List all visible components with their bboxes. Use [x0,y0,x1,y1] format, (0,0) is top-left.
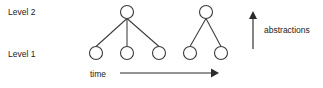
tree-2-leaf-node-1 [184,47,197,60]
abstractions-axis-arrow-icon [249,11,257,19]
abstractions-axis: abstractions [249,11,310,49]
tree-2-edge-1 [190,19,206,47]
tree-2-leaf-node-2 [215,47,228,60]
tree-1-edge-3 [127,19,159,47]
time-axis-label: time [90,69,106,79]
tree-2-edge-2 [206,19,221,47]
time-axis: time [90,69,219,80]
tree-1-leaf-node-3 [153,47,166,60]
tree-1-root-node [121,6,134,19]
level-1-label: Level 1 [8,49,36,59]
tree-1 [90,6,166,60]
tree-2 [184,6,228,60]
abstraction-timeline-figure: Level 2 Level 1 time [0,0,323,88]
time-axis-arrow-icon [211,69,219,78]
figure-canvas: Level 2 Level 1 time [0,0,323,88]
tree-2-root-node [200,6,213,19]
level-2-label: Level 2 [8,7,36,17]
abstractions-axis-label: abstractions [264,25,310,35]
tree-1-edge-1 [96,19,127,47]
tree-1-leaf-node-2 [121,47,134,60]
tree-1-leaf-node-1 [90,47,103,60]
